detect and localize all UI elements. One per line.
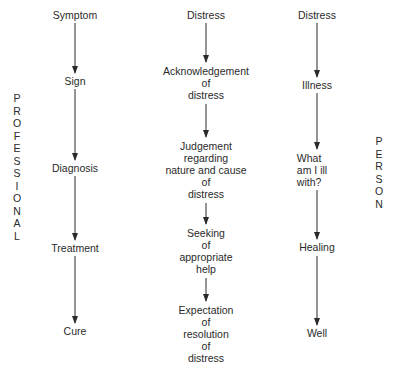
node-sign: Sign [64,75,85,87]
node-well: Well [307,327,327,339]
node-symptom: Symptom [53,9,97,21]
node-healing: Healing [299,241,335,253]
person-vertical-label: P E R S O N [375,135,383,210]
node-illness: Illness [302,79,332,91]
node-diagnosis: Diagnosis [52,162,98,174]
node-judgement: Judgement regarding nature and cause of … [165,140,246,200]
node-distress-person: Distress [298,9,336,21]
node-distress-middle: Distress [187,9,225,21]
node-expectation: Expectation of resolution of distress [179,304,234,364]
professional-vertical-label: P R O F E S S I O N A L [13,92,21,242]
node-treatment: Treatment [51,242,98,254]
node-cure: Cure [64,325,87,337]
node-seeking: Seeking of appropriate help [179,227,232,275]
node-acknowledgement: Acknowledgement of distress [163,65,249,101]
node-what-am-i-ill-with: What am I ill with? [297,152,327,188]
